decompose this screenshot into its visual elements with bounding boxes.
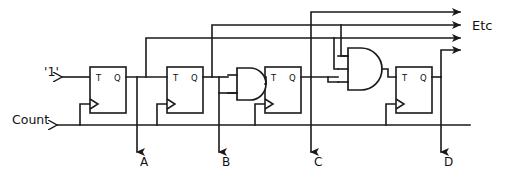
ff-d-q-label: Q — [420, 73, 427, 83]
output-label-b: B — [222, 155, 230, 169]
ff-a-t-label: T — [95, 73, 102, 83]
ff-b-q-label: Q — [191, 73, 198, 83]
ff-c-q-label: Q — [289, 73, 296, 83]
input-label-one: '1' — [44, 64, 59, 79]
clock-distribution — [80, 104, 396, 125]
output-label-c: C — [314, 155, 322, 169]
flipflop-b: T Q — [167, 67, 203, 113]
ff-d-t-label: T — [401, 73, 408, 83]
continuation-label: Etc — [472, 18, 492, 33]
input-label-count: Count — [12, 112, 49, 127]
flipflop-a: T Q — [90, 67, 126, 113]
and-gate-1 — [228, 68, 266, 100]
ff-b-t-label: T — [172, 73, 179, 83]
circuit-diagram: T Q T Q T Q T Q — [0, 0, 506, 186]
flipflop-c: T Q — [265, 67, 301, 113]
and2-input-feeds — [334, 25, 348, 69]
ff-c-t-label: T — [270, 73, 277, 83]
and-gate-2 — [338, 48, 382, 90]
output-label-d: D — [444, 155, 453, 169]
and2-out-to-ffd — [382, 69, 396, 77]
qc-net — [301, 12, 460, 152]
flipflop-d: T Q — [396, 67, 432, 113]
qd-net — [432, 50, 460, 152]
ff-a-q-label: Q — [114, 73, 121, 83]
circuit-canvas: T Q T Q T Q T Q — [0, 0, 506, 186]
output-label-a: A — [140, 155, 149, 169]
